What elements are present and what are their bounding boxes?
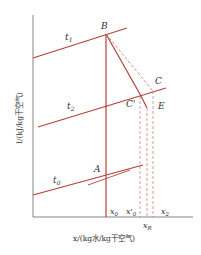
label-xR: xR (143, 221, 152, 231)
label-t2: t2 (67, 101, 75, 112)
label-t1: t1 (65, 32, 72, 43)
label-point-a: A (93, 164, 101, 174)
label-x0: x0 (110, 207, 119, 217)
psychrometric-diagram: t1 t2 t0 B C C' E A x0 x'0 xR x2 x/(kg水/… (0, 0, 201, 255)
label-point-c: C (155, 76, 162, 86)
label-x2: x2 (161, 207, 170, 217)
isotherm-t0 (33, 165, 143, 195)
line-b-c-dashed (106, 34, 153, 91)
y-axis-title: I/(kJ/kg干空气) (14, 92, 24, 144)
isotherm-t1 (33, 28, 127, 58)
x-axis-title: x/(kg水/kg干空气) (73, 233, 135, 243)
label-t0: t0 (53, 175, 61, 186)
label-point-cprime: C' (126, 99, 135, 109)
label-x0-prime: x'0 (126, 207, 137, 217)
label-point-b: B (100, 21, 108, 31)
label-point-e: E (157, 101, 165, 111)
line-b-cprime (106, 34, 147, 108)
